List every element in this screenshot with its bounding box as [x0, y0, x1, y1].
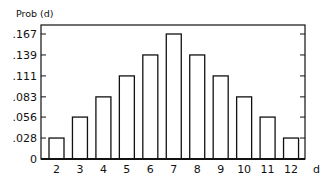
x-axis: 23456789101112 — [41, 159, 305, 176]
x-tick-label: 4 — [100, 163, 107, 176]
bar-6 — [143, 55, 158, 159]
y-tick-label: .028 — [13, 132, 38, 145]
right-ticks — [300, 34, 305, 159]
x-tick-label: 6 — [147, 163, 154, 176]
x-axis-title: d — [313, 163, 320, 176]
y-tick-label: .083 — [13, 91, 38, 104]
x-tick-label: 11 — [261, 163, 275, 176]
x-tick-label: 9 — [217, 163, 224, 176]
x-tick-label: 8 — [194, 163, 201, 176]
bar-12 — [284, 138, 299, 159]
bars — [49, 34, 299, 159]
bar-11 — [260, 117, 275, 159]
dice-probability-bar-chart: Prob (d) 0.028.056.083.111.139.167 23456… — [0, 0, 327, 182]
bar-2 — [49, 138, 64, 159]
y-tick-label: .111 — [13, 70, 38, 83]
y-tick-label: 0 — [30, 153, 37, 166]
x-tick-label: 10 — [237, 163, 251, 176]
bar-8 — [190, 55, 205, 159]
bar-7 — [166, 34, 181, 159]
y-axis-title: Prob (d) — [16, 8, 54, 19]
y-tick-label: .139 — [13, 49, 38, 62]
y-tick-label: .167 — [13, 28, 38, 41]
x-tick-label: 3 — [76, 163, 83, 176]
x-tick-label: 2 — [53, 163, 60, 176]
bar-3 — [72, 117, 87, 159]
bar-5 — [119, 76, 134, 159]
x-tick-label: 5 — [123, 163, 130, 176]
bar-4 — [96, 97, 111, 159]
bar-10 — [237, 97, 252, 159]
y-tick-label: .056 — [13, 111, 38, 124]
x-tick-label: 12 — [284, 163, 298, 176]
x-tick-label: 7 — [170, 163, 177, 176]
bar-9 — [213, 76, 228, 159]
